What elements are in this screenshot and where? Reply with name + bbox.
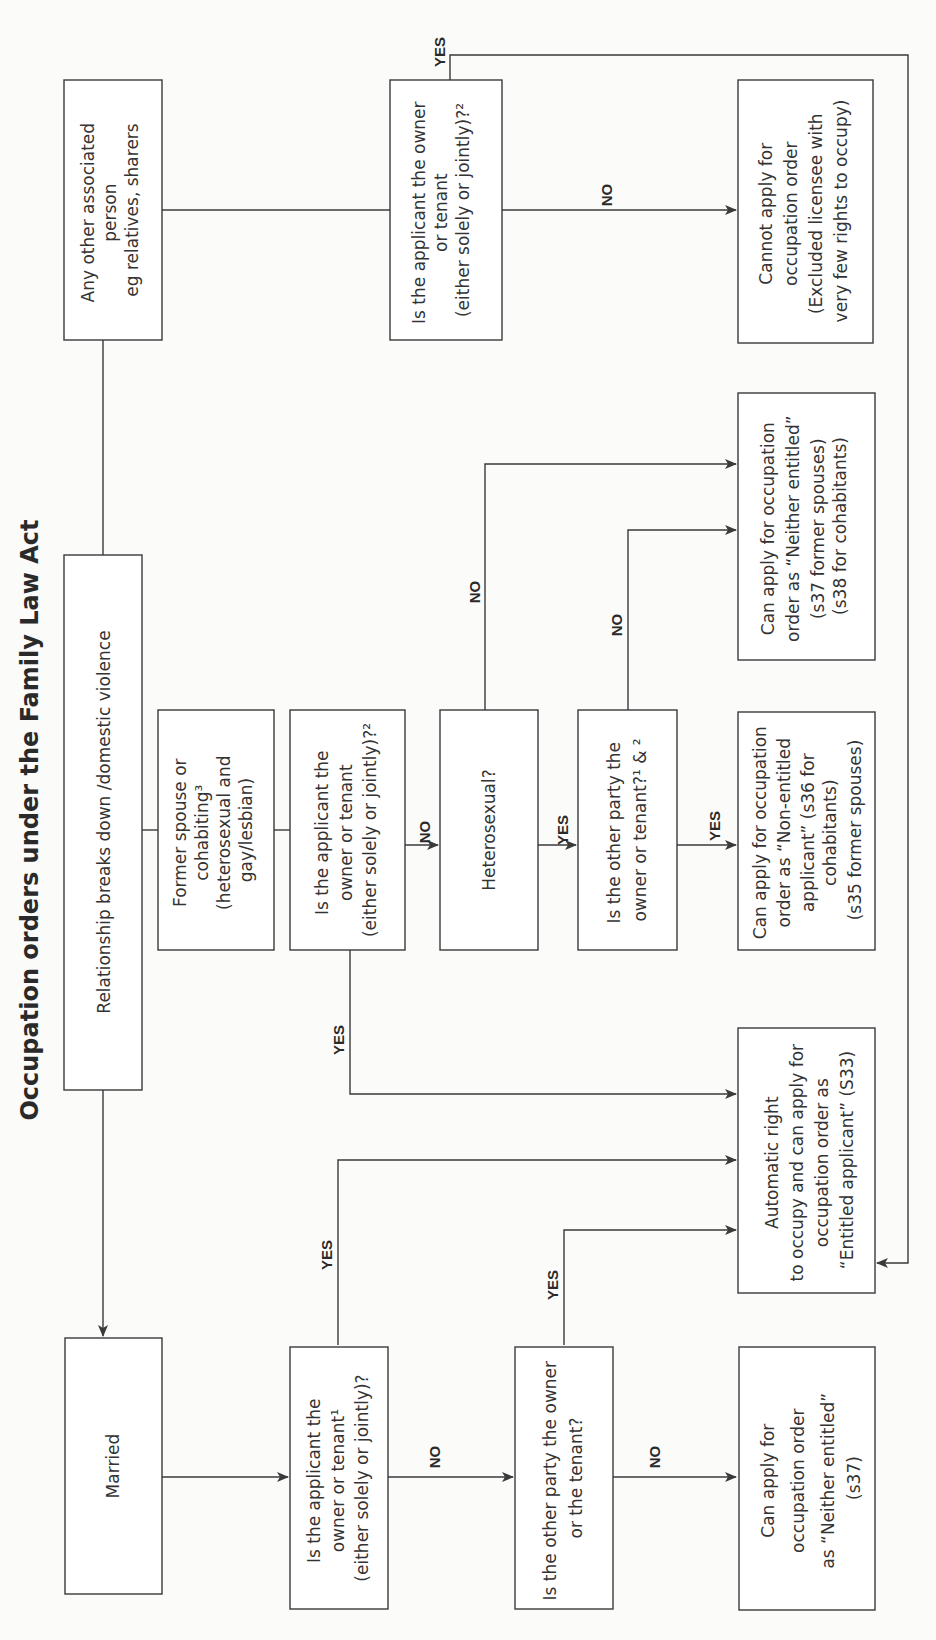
node-former-line-2: (heterosexual and: [214, 756, 234, 910]
svg-text:Can apply for occupation: Can apply for occupation order as “Non-e…: [750, 721, 865, 939]
node-non-entitled: Can apply for occupation order as “Non-e…: [738, 712, 875, 950]
node-cannot-apply-line-1: occupation order: [781, 142, 801, 286]
node-married-line-0: Married: [103, 1434, 123, 1499]
node-married-owner-line-2: (either solely or jointly)?: [352, 1374, 372, 1581]
node-neither-former-line-0: Can apply for occupation: [758, 422, 778, 635]
node-other-question-line-1: or tenant: [431, 173, 451, 252]
node-former-question-line-2: (either solely or jointly)?²: [360, 723, 380, 937]
label-married-owner-yes: YES: [318, 1240, 335, 1270]
node-cannot-apply-line-2: (Excluded licensee with: [806, 113, 826, 314]
label-married-other-yes: YES: [544, 1270, 561, 1300]
connector-former-owner-yes: [350, 950, 736, 1094]
connector-married-other-yes: [564, 1230, 736, 1345]
label-hetero-no: NO: [466, 580, 483, 603]
node-married-question-other: Is the other party the owner or the tena…: [515, 1347, 613, 1609]
node-cannot-apply-line-3: very few rights to occupy): [831, 100, 851, 323]
label-other-yes: YES: [431, 37, 448, 67]
node-non-entitled-line-4: (s35 former spouses): [845, 740, 865, 921]
node-other-person: Any other associated person eg relatives…: [64, 80, 162, 340]
node-non-entitled-line-3: cohabitants): [820, 779, 840, 885]
connector-married-owner-yes: [338, 1160, 736, 1345]
node-former-line-3: gay/lesbian): [236, 778, 256, 882]
connector-former-other-no: [628, 530, 736, 710]
node-other-person-line-1: person: [100, 184, 120, 242]
node-neither-married-line-0: Can apply for: [758, 1424, 778, 1538]
label-married-owner-no: NO: [426, 1445, 443, 1468]
node-automatic-right: Automatic right to occupy and can apply …: [738, 1028, 875, 1293]
node-automatic-line-0: Automatic right: [762, 1096, 782, 1229]
node-neither-former-line-3: (s38 for cohabitants): [830, 437, 850, 615]
node-heterosexual: Heterosexual?: [440, 710, 538, 950]
node-former-question-other: Is the other party the owner or tenant?¹…: [578, 710, 677, 950]
node-former: Former spouse or cohabiting³ (heterosexu…: [158, 710, 274, 950]
node-cannot-apply: Cannot apply for occupation order (Exclu…: [738, 80, 873, 343]
node-start-line-0: Relationship breaks down /domestic viole…: [94, 630, 114, 1013]
node-other-person-line-0: Any other associated: [78, 123, 98, 303]
diagram-title: Occupation orders under the Family Law A…: [16, 519, 44, 1120]
node-former-question-line-0: Is the applicant the: [312, 750, 332, 915]
node-neither-entitled-former: Can apply for occupation order as “Neith…: [738, 393, 875, 660]
node-automatic-line-2: occupation order as: [812, 1078, 832, 1247]
label-former-owner-yes: YES: [330, 1025, 347, 1055]
svg-text:Is the applicant the own: Is the applicant the owner or tenant¹ (e…: [304, 1374, 372, 1581]
node-heterosexual-line-0: Heterosexual?: [479, 769, 499, 890]
svg-text:Married: Married: [103, 1434, 123, 1499]
label-hetero-yes: YES: [554, 815, 571, 845]
node-cannot-apply-line-0: Cannot apply for: [756, 143, 776, 285]
node-neither-married-line-1: occupation order: [788, 1409, 808, 1553]
node-former-question-owner: Is the applicant the owner or tenant (ei…: [290, 710, 405, 950]
node-married-owner-line-0: Is the applicant the: [304, 1398, 324, 1563]
node-neither-former-line-1: order as “Neither entitled”: [783, 415, 803, 641]
node-other-question-line-0: Is the applicant the owner: [409, 101, 429, 323]
label-former-other-no: NO: [608, 613, 625, 636]
label-former-other-yes: YES: [706, 811, 723, 841]
node-non-entitled-line-2: applicant” (s36 for: [798, 753, 818, 912]
node-automatic-line-3: “Entitled applicant” (S33): [837, 1051, 857, 1269]
node-married-other-line-1: or the tenant?: [566, 1418, 586, 1539]
label-married-other-no: NO: [646, 1445, 663, 1468]
node-automatic-line-1: to occupy and can apply for: [787, 1044, 807, 1282]
node-other-person-line-2: eg relatives, sharers: [122, 123, 142, 297]
node-former-line-0: Former spouse or: [170, 758, 190, 907]
node-non-entitled-line-1: order as “Non-entitled: [774, 738, 794, 928]
label-other-no: NO: [598, 183, 615, 206]
connector-hetero-no: [485, 464, 736, 710]
node-start: Relationship breaks down /domestic viole…: [64, 555, 142, 1090]
node-former-question-line-1: owner or tenant: [336, 764, 356, 901]
node-former-other-line-1: owner or tenant?¹ & ²: [630, 738, 650, 921]
label-former-owner-no: NO: [416, 820, 433, 843]
node-neither-entitled-married: Can apply for occupation order as “Neith…: [739, 1347, 875, 1610]
node-other-question-owner: Is the applicant the owner or tenant (ei…: [390, 80, 502, 340]
svg-text:Relationship breaks down /dome: Relationship breaks down /domestic viole…: [94, 630, 114, 1013]
node-neither-former-line-2: (s37 former spouses): [808, 438, 828, 619]
node-non-entitled-line-0: Can apply for occupation: [750, 726, 770, 939]
node-married: Married: [65, 1338, 162, 1594]
svg-text:Heterosexual?: Heterosexual?: [479, 769, 499, 890]
node-former-other-line-0: Is the other party the: [604, 742, 624, 924]
node-married-other-line-0: Is the other party the owner: [540, 1361, 560, 1600]
node-neither-married-line-3: (s37): [844, 1456, 864, 1500]
flowchart: Occupation orders under the Family Law A…: [0, 0, 936, 1640]
node-neither-married-line-2: as “Neither entitled”: [818, 1393, 838, 1569]
node-married-owner-line-1: owner or tenant¹: [328, 1409, 348, 1552]
node-married-question-owner: Is the applicant the owner or tenant¹ (e…: [290, 1347, 388, 1609]
node-other-question-line-2: (either solely or jointly)?²: [453, 103, 473, 317]
node-former-line-1: cohabiting³: [192, 785, 212, 881]
